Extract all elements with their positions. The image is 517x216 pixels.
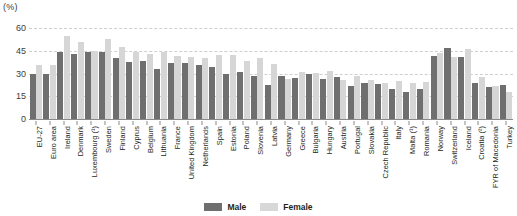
bar-female bbox=[257, 58, 263, 119]
bar-male bbox=[126, 62, 132, 119]
bar-male bbox=[140, 61, 146, 119]
x-axis-tick bbox=[450, 121, 451, 125]
x-axis-category: Denmark bbox=[70, 121, 84, 193]
bar-group bbox=[250, 28, 264, 119]
x-axis-category: Portugal bbox=[347, 121, 361, 193]
x-axis-tick bbox=[436, 121, 437, 125]
bar-male bbox=[292, 78, 298, 119]
x-axis-category: Latvia bbox=[264, 121, 278, 193]
bar-group bbox=[153, 28, 167, 119]
x-axis-category: EU-27 bbox=[29, 121, 43, 193]
bar-male bbox=[223, 74, 229, 120]
y-axis-tick: 30 bbox=[16, 69, 26, 79]
bar-group bbox=[444, 28, 458, 119]
x-axis-tick bbox=[506, 121, 507, 125]
bar-male bbox=[209, 67, 215, 119]
x-axis-tick bbox=[77, 121, 78, 125]
bar-group bbox=[195, 28, 209, 119]
bar-female bbox=[313, 73, 319, 119]
bar-female bbox=[299, 72, 305, 119]
x-axis-category: Czech Republic bbox=[375, 121, 389, 193]
bar-male bbox=[417, 89, 423, 119]
bar-female bbox=[340, 80, 346, 119]
bar-group bbox=[292, 28, 306, 119]
x-axis-category: Turkey bbox=[499, 121, 513, 193]
bar-group bbox=[181, 28, 195, 119]
x-axis-category: Finland bbox=[112, 121, 126, 193]
x-axis-tick bbox=[35, 121, 36, 125]
bar-female bbox=[216, 55, 222, 119]
bar-group bbox=[485, 28, 499, 119]
bar-group bbox=[472, 28, 486, 119]
legend-label-female: Female bbox=[283, 202, 312, 212]
bar-male bbox=[196, 65, 202, 119]
bar-male bbox=[237, 72, 243, 119]
x-axis-tick bbox=[326, 121, 327, 125]
x-axis-category: Hungary bbox=[319, 121, 333, 193]
bar-female bbox=[271, 64, 277, 119]
axis-baseline bbox=[29, 119, 513, 120]
bar-female bbox=[64, 36, 70, 119]
bar-male bbox=[320, 79, 326, 119]
bar-male bbox=[154, 69, 160, 119]
bar-female bbox=[202, 58, 208, 119]
bar-male bbox=[306, 74, 312, 120]
y-axis-tick: 60 bbox=[16, 23, 26, 33]
bar-female bbox=[285, 79, 291, 119]
x-axis-tick bbox=[215, 121, 216, 125]
bar-female bbox=[36, 65, 42, 119]
y-axis-unit-label: (%) bbox=[3, 2, 18, 12]
bar-group bbox=[306, 28, 320, 119]
x-axis-tick bbox=[188, 121, 189, 125]
legend-item-male: Male bbox=[204, 202, 246, 212]
bar-male bbox=[444, 48, 450, 119]
bar-male bbox=[113, 58, 119, 119]
bar-group bbox=[112, 28, 126, 119]
chart-legend: MaleFemale bbox=[0, 202, 517, 212]
x-axis-category: Slovenia bbox=[250, 121, 264, 193]
x-axis-category: Iceland bbox=[458, 121, 472, 193]
bar-female bbox=[451, 57, 457, 119]
x-axis-category: Lithuania bbox=[153, 121, 167, 193]
x-axis-category-labels: EU-27Euro areaIrelandDenmarkLuxembourg (… bbox=[29, 121, 513, 193]
x-axis-category: Croatia (²) bbox=[472, 121, 486, 193]
bar-male bbox=[57, 52, 63, 119]
x-axis-tick bbox=[409, 121, 410, 125]
x-axis-tick bbox=[160, 121, 161, 125]
x-axis-category: Spain bbox=[209, 121, 223, 193]
legend-label-male: Male bbox=[227, 202, 246, 212]
bar-male bbox=[361, 83, 367, 119]
bar-female bbox=[50, 65, 56, 119]
bar-groups bbox=[29, 28, 513, 119]
bar-group bbox=[278, 28, 292, 119]
bar-group bbox=[209, 28, 223, 119]
bar-male bbox=[30, 74, 36, 119]
x-axis-tick bbox=[105, 121, 106, 125]
bar-group bbox=[416, 28, 430, 119]
bar-group bbox=[57, 28, 71, 119]
x-axis-category: United Kingdom bbox=[181, 121, 195, 193]
bar-female bbox=[492, 86, 498, 119]
x-axis-category: France bbox=[167, 121, 181, 193]
x-axis-tick bbox=[298, 121, 299, 125]
x-axis-tick bbox=[91, 121, 92, 125]
bar-group bbox=[43, 28, 57, 119]
x-axis-category: Euro area bbox=[43, 121, 57, 193]
bar-male bbox=[375, 84, 381, 119]
x-axis-category: Greece bbox=[292, 121, 306, 193]
x-axis-category: Cyprus bbox=[126, 121, 140, 193]
y-axis-tick-labels: 015304560 bbox=[0, 28, 26, 119]
x-axis-category: Belgium bbox=[140, 121, 154, 193]
x-axis-category-label: Turkey bbox=[506, 126, 513, 149]
x-axis-tick bbox=[423, 121, 424, 125]
bar-female bbox=[91, 51, 97, 119]
bar-female bbox=[188, 57, 194, 119]
x-axis-tick bbox=[353, 121, 354, 125]
bar-male bbox=[251, 76, 257, 119]
bar-female bbox=[423, 82, 429, 119]
bar-female bbox=[133, 52, 139, 119]
bar-group bbox=[167, 28, 181, 119]
x-axis-tick bbox=[257, 121, 258, 125]
bar-group bbox=[140, 28, 154, 119]
bar-female bbox=[78, 42, 84, 119]
